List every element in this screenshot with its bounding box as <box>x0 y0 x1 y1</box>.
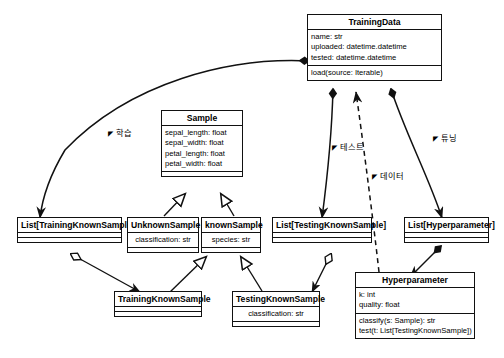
class-box-hyperparameter[interactable]: Hyperparameter k: int quality: float cla… <box>355 272 475 339</box>
attribute-row: petal_width: float <box>165 159 239 169</box>
class-methods-list-hyperparameter <box>405 237 488 242</box>
edge-label-marker-icon: ◤ <box>433 135 438 143</box>
attribute-row: k: int <box>359 290 471 300</box>
class-methods-training-known-sample <box>115 311 201 316</box>
class-methods-list-testing-known-sample <box>273 237 371 242</box>
attribute-row: sepal_length: float <box>165 128 239 138</box>
edge-label-text: 데이터 <box>380 171 404 181</box>
edge-knownsample-generalizes-sample <box>221 194 234 216</box>
edge-unknownsample-generalizes-sample <box>164 194 185 216</box>
method-row: classify(s: Sample): str <box>359 316 471 326</box>
edge-hyperparameter-to-trainingdata-dependency <box>356 92 379 272</box>
edge-trainingdata-to-list-testing <box>322 89 333 218</box>
edge-testingknownsample-generalizes-knownsample <box>241 257 262 291</box>
class-attributes-testing-known-sample: classification: str <box>233 306 319 321</box>
attribute-row: classification: str <box>236 309 316 319</box>
class-name-training-known-sample: TrainingKnownSample <box>115 292 201 306</box>
class-name-list-training-known-sample: List[TrainingKnownSample] <box>18 218 121 232</box>
class-methods-list-training-known-sample <box>18 237 121 242</box>
edge-label-text: 학습 <box>116 128 132 138</box>
attribute-row: name: str <box>311 32 438 42</box>
attribute-row: tested: datetime.datetime <box>311 53 438 63</box>
class-box-sample[interactable]: Sample sepal_length: float sepal_width: … <box>161 110 243 177</box>
class-attributes-known-sample: species: str <box>202 232 260 247</box>
edge-label-tuning: ◤ 튜닝 <box>433 131 457 143</box>
attribute-row: uploaded: datetime.datetime <box>311 42 438 52</box>
class-methods-sample <box>162 171 242 176</box>
edge-label-data: ◤ 데이터 <box>372 169 404 181</box>
attribute-row: quality: float <box>359 300 471 310</box>
class-box-list-training-known-sample[interactable]: List[TrainingKnownSample] <box>17 217 122 243</box>
uml-class-diagram: TrainingData name: str uploaded: datetim… <box>0 0 504 358</box>
class-box-training-known-sample[interactable]: TrainingKnownSample <box>114 291 202 317</box>
attribute-row: classification: str <box>131 235 195 245</box>
class-name-sample: Sample <box>162 111 242 125</box>
class-name-list-testing-known-sample: List[TestingKnownSample] <box>273 218 371 232</box>
method-row: test(t: List[TestingKnownSample]) <box>359 326 471 336</box>
edge-trainingknownsample-generalizes-knownsample <box>169 257 206 293</box>
class-name-list-hyperparameter: List[Hyperparameter] <box>405 218 488 232</box>
edge-label-training: ◤ 학습 <box>108 126 132 138</box>
class-methods-known-sample <box>202 247 260 252</box>
class-methods-testing-known-sample <box>233 321 319 326</box>
class-name-unknown-sample: UnknownSample <box>128 218 198 232</box>
method-row: load(source: Iterable) <box>311 68 438 78</box>
edge-listtesting-to-testingknownsample <box>312 254 331 292</box>
class-name-hyperparameter: Hyperparameter <box>356 273 474 287</box>
class-box-training-data[interactable]: TrainingData name: str uploaded: datetim… <box>307 14 442 81</box>
class-name-testing-known-sample: TestingKnownSample <box>233 292 319 306</box>
class-methods-hyperparameter: classify(s: Sample): str test(t: List[Te… <box>356 313 474 339</box>
class-box-known-sample[interactable]: knownSample species: str <box>201 217 261 253</box>
class-attributes-sample: sepal_length: float sepal_width: float p… <box>162 125 242 171</box>
class-box-list-testing-known-sample[interactable]: List[TestingKnownSample] <box>272 217 372 243</box>
class-name-training-data: TrainingData <box>308 15 441 29</box>
edge-label-marker-icon: ◤ <box>332 144 337 152</box>
edge-listtraining-to-trainingknownsample <box>71 254 140 292</box>
edge-label-test: ◤ 테스트 <box>332 140 364 152</box>
edge-label-marker-icon: ◤ <box>372 173 377 181</box>
edge-label-text: 튜닝 <box>441 133 457 143</box>
class-box-testing-known-sample[interactable]: TestingKnownSample classification: str <box>232 291 320 327</box>
attribute-row: petal_length: float <box>165 149 239 159</box>
class-attributes-hyperparameter: k: int quality: float <box>356 287 474 313</box>
attribute-row: sepal_width: float <box>165 138 239 148</box>
class-attributes-unknown-sample: classification: str <box>128 232 198 247</box>
class-box-unknown-sample[interactable]: UnknownSample classification: str <box>127 217 199 253</box>
class-attributes-training-data: name: str uploaded: datetime.datetime te… <box>308 29 441 65</box>
edge-label-marker-icon: ◤ <box>108 130 113 138</box>
class-methods-unknown-sample <box>128 247 198 252</box>
class-name-known-sample: knownSample <box>202 218 260 232</box>
edge-trainingdata-to-list-hyperparameter <box>391 89 442 218</box>
class-methods-training-data: load(source: Iterable) <box>308 65 441 80</box>
class-box-list-hyperparameter[interactable]: List[Hyperparameter] <box>404 217 489 243</box>
attribute-row: species: str <box>205 235 257 245</box>
edge-label-text: 테스트 <box>340 142 364 152</box>
